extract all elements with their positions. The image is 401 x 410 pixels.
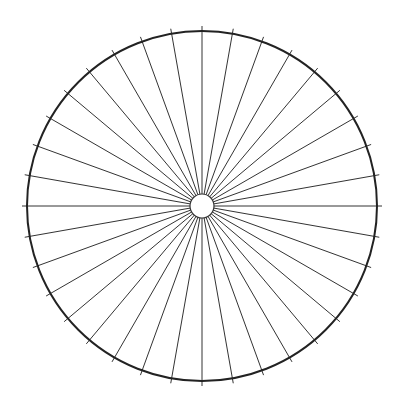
spoke-line [210, 68, 318, 197]
spoke-line [86, 68, 194, 197]
radial-wheel-diagram [0, 0, 401, 410]
spoke-line [204, 29, 233, 194]
spoke-line [171, 218, 200, 383]
spoke-line [210, 215, 318, 344]
spoke-line [33, 210, 191, 267]
spoke-line [33, 144, 191, 201]
spoke-line [86, 215, 194, 344]
spoke-line [25, 175, 190, 204]
spoke-line [46, 116, 191, 200]
spoke-line [208, 50, 292, 195]
spoke-line [211, 214, 340, 322]
spoke-line [213, 210, 371, 267]
spoke-line [140, 37, 197, 195]
spoke-line [25, 208, 190, 237]
spoke-line [208, 216, 292, 361]
spoke-line [140, 217, 197, 375]
spoke-line [171, 29, 200, 194]
spoke-line [112, 50, 196, 195]
spoke-line [112, 216, 196, 361]
spoke-line [212, 212, 357, 296]
spoke-line [214, 208, 379, 237]
spoke-line [206, 217, 263, 375]
spoke-line [206, 37, 263, 195]
spoke-line [213, 144, 371, 201]
spoke-line [64, 214, 193, 322]
spoke-line [204, 218, 233, 383]
spoke-line [214, 175, 379, 204]
spoke-line [212, 116, 357, 200]
center-hub-circle [190, 194, 214, 218]
spoke-line [46, 212, 191, 296]
spoke-line [211, 90, 340, 198]
spoke-line [64, 90, 193, 198]
